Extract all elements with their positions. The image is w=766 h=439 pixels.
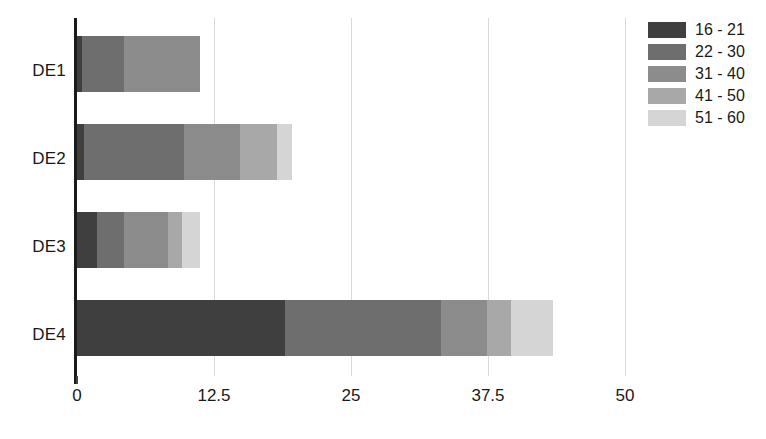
legend: 16 - 21 22 - 30 31 - 40 41 - 50 51 - 60 [648,20,760,130]
bar-segment-de3-31-40[interactable] [124,212,168,268]
legend-label-22-30: 22 - 30 [695,43,745,61]
bar-segment-de2-41-50[interactable] [240,124,277,180]
bar-row-de2[interactable] [77,124,292,180]
x-axis-label-50: 50 [616,386,635,406]
legend-swatch-16-21 [648,22,686,38]
legend-label-31-40: 31 - 40 [695,65,745,83]
legend-item-16-21[interactable]: 16 - 21 [648,20,760,39]
x-axis-label-25: 25 [342,386,361,406]
bar-segment-de4-16-21[interactable] [77,300,285,356]
bar-segment-de3-16-21[interactable] [77,212,97,268]
bar-row-de4[interactable] [77,300,553,356]
bar-segment-de3-41-50[interactable] [168,212,182,268]
x-tick-mark-0 [76,376,78,384]
legend-swatch-41-50 [648,88,686,104]
bar-segment-de1-31-40[interactable] [124,36,200,92]
legend-item-22-30[interactable]: 22 - 30 [648,42,760,61]
bar-segment-de2-51-60[interactable] [277,124,292,180]
legend-label-41-50: 41 - 50 [695,87,745,105]
legend-label-16-21: 16 - 21 [695,21,745,39]
legend-item-41-50[interactable]: 41 - 50 [648,86,760,105]
legend-swatch-51-60 [648,110,686,126]
y-axis-label-de2: DE2 [0,149,66,169]
legend-swatch-31-40 [648,66,686,82]
bar-segment-de3-51-60[interactable] [182,212,200,268]
legend-item-31-40[interactable]: 31 - 40 [648,64,760,83]
bar-row-de1[interactable] [77,36,200,92]
bar-segment-de2-16-21[interactable] [77,124,84,180]
bar-segment-de2-22-30[interactable] [84,124,184,180]
bar-segment-de4-22-30[interactable] [285,300,441,356]
bar-row-de3[interactable] [77,212,200,268]
bar-segment-de2-31-40[interactable] [184,124,240,180]
y-axis-label-de4: DE4 [0,325,66,345]
bar-segment-de4-41-50[interactable] [487,300,511,356]
bar-segment-de4-31-40[interactable] [441,300,487,356]
gridline-50 [625,18,626,376]
x-axis-label-0: 0 [72,386,81,406]
bar-segment-de1-22-30[interactable] [82,36,124,92]
legend-item-51-60[interactable]: 51 - 60 [648,108,760,127]
y-axis-line [74,18,77,384]
bar-chart: DE1 DE2 DE3 DE4 0 12.5 25 37.5 50 16 - 2… [0,0,766,439]
legend-swatch-22-30 [648,44,686,60]
bar-segment-de4-51-60[interactable] [511,300,553,356]
bar-segment-de3-22-30[interactable] [97,212,124,268]
y-axis-label-de1: DE1 [0,61,66,81]
y-axis-label-de3: DE3 [0,237,66,257]
x-axis-label-37-5: 37.5 [471,386,504,406]
x-axis-label-12-5: 12.5 [197,386,230,406]
legend-label-51-60: 51 - 60 [695,109,745,127]
plot-area [77,18,625,376]
